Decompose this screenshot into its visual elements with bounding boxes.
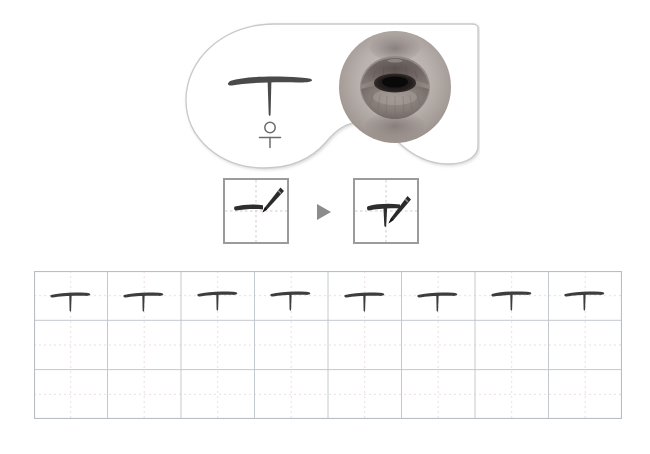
stroke-order-step-2: [353, 178, 419, 244]
rounded-lips-mouth-photo: [339, 31, 451, 143]
practice-grid[interactable]: ㅜ: [34, 271, 622, 419]
stroke-order-arrow-icon: [315, 202, 333, 222]
letter-and-mouth-blob-group: [180, 18, 480, 173]
stroke-order-step-1: [223, 178, 289, 244]
pencil-icon: [263, 188, 285, 213]
stroke-order-row: Step 1 Step 2: [223, 178, 435, 250]
lesson-header-section: ㅜ 우: [0, 0, 650, 180]
pronunciation-symbol-u: [247, 118, 293, 152]
pencil-icon: [389, 196, 412, 224]
